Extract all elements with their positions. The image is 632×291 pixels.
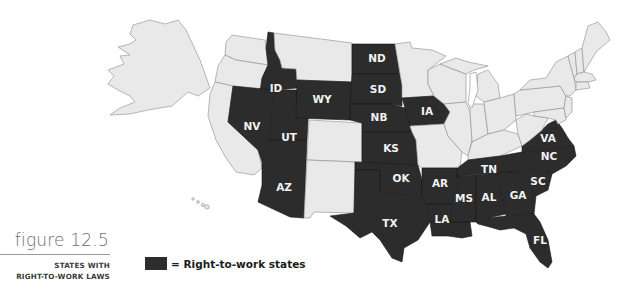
label-sd: SD: [370, 83, 387, 95]
label-ut: UT: [281, 131, 298, 143]
state-me: [582, 22, 610, 72]
label-ar: AR: [432, 177, 448, 189]
figure-caption: figure 12.5 STATES WITH RIGHT-TO-WORK LA…: [0, 230, 110, 282]
label-id: ID: [270, 82, 283, 94]
label-ms: MS: [455, 192, 473, 204]
figure-divider: [0, 254, 110, 255]
label-ia: IA: [421, 105, 434, 117]
label-az: AZ: [276, 181, 292, 193]
label-tx: TX: [382, 217, 397, 229]
legend-swatch: [145, 257, 167, 270]
label-al: AL: [482, 191, 497, 203]
lake-michigan: [468, 72, 478, 108]
label-fl: FL: [533, 234, 547, 246]
state-hi: [192, 198, 209, 209]
label-ok: OK: [392, 172, 410, 184]
legend: = Right-to-work states: [145, 257, 306, 270]
legend-label: = Right-to-work states: [171, 258, 306, 270]
state-nj: [564, 96, 572, 118]
state-nm: [304, 160, 355, 218]
state-ct-ri: [576, 82, 590, 90]
label-la: LA: [435, 213, 451, 225]
label-ga: GA: [510, 189, 528, 201]
figure-subtitle-line2: RIGHT-TO-WORK LAWS: [0, 271, 110, 282]
label-wy: WY: [312, 93, 332, 105]
state-ak: [108, 20, 210, 115]
label-sc: SC: [530, 175, 546, 187]
label-va: VA: [540, 132, 556, 144]
label-ks: KS: [383, 142, 399, 154]
label-nb: NB: [371, 111, 388, 123]
figure-subtitle-line1: STATES WITH: [0, 260, 110, 271]
label-nv: NV: [244, 120, 262, 132]
state-co: [307, 120, 362, 162]
label-nd: ND: [368, 52, 386, 64]
figure-title: figure 12.5: [0, 230, 110, 250]
label-nc: NC: [541, 150, 558, 162]
label-tn: TN: [481, 163, 497, 175]
